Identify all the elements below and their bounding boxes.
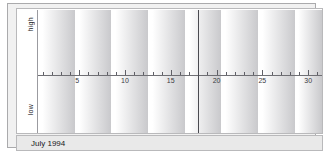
- x-axis-tick-minor: [244, 72, 245, 75]
- x-axis-tick-minor: [134, 72, 135, 75]
- x-axis-tick-minor: [317, 72, 318, 75]
- x-axis-tick-minor: [180, 72, 181, 75]
- x-axis-tick-minor: [107, 72, 108, 75]
- x-axis-tick-minor: [235, 72, 236, 75]
- y-axis-high-label: high: [27, 17, 34, 31]
- x-axis-tick-minor: [88, 72, 89, 75]
- x-axis-tick-minor: [253, 72, 254, 75]
- x-axis-tick-minor: [98, 72, 99, 75]
- window-frame: high low 51015202530 July 1994: [7, 3, 316, 148]
- x-axis-tick-label: 25: [258, 77, 266, 85]
- x-axis-tick-major: [171, 70, 172, 75]
- x-axis-tick-minor: [143, 72, 144, 75]
- x-axis-tick-minor: [70, 72, 71, 75]
- x-axis-tick-minor: [189, 72, 190, 75]
- x-axis-tick-minor: [153, 72, 154, 75]
- x-axis-tick-label: 15: [167, 77, 175, 85]
- x-axis-tick-major: [79, 70, 80, 75]
- plot-area[interactable]: 51015202530: [38, 10, 322, 133]
- x-axis-tick-label: 5: [75, 77, 79, 85]
- x-axis-tick-minor: [226, 72, 227, 75]
- x-axis-tick-major: [262, 70, 263, 75]
- day-band: [185, 10, 222, 133]
- x-axis-tick-minor: [272, 72, 273, 75]
- month-year-label: July 1994: [31, 139, 65, 148]
- chart-panel: high low 51015202530: [16, 8, 323, 134]
- x-axis-tick-label: 30: [304, 77, 312, 85]
- x-axis-tick-major: [125, 70, 126, 75]
- x-axis-tick-minor: [116, 72, 117, 75]
- biorhythm-chart-window: high low 51015202530 July 1994: [0, 0, 324, 157]
- x-axis-tick-minor: [207, 72, 208, 75]
- x-axis-tick-label: 10: [121, 77, 129, 85]
- y-axis-low-label: low: [27, 104, 34, 115]
- zero-axis-line: [38, 75, 322, 76]
- x-axis-tick-minor: [299, 72, 300, 75]
- day-band: [258, 10, 295, 133]
- x-axis-tick-minor: [52, 72, 53, 75]
- day-band: [75, 10, 112, 133]
- x-axis-tick-major: [308, 70, 309, 75]
- footer-bar: July 1994: [16, 135, 323, 151]
- today-marker-line: [198, 10, 199, 133]
- x-axis-tick-minor: [281, 72, 282, 75]
- x-axis-tick-label: 20: [213, 77, 221, 85]
- x-axis-tick-major: [217, 70, 218, 75]
- x-axis-tick-minor: [162, 72, 163, 75]
- x-axis-tick-minor: [290, 72, 291, 75]
- x-axis-tick-minor: [61, 72, 62, 75]
- x-axis-tick-minor: [43, 72, 44, 75]
